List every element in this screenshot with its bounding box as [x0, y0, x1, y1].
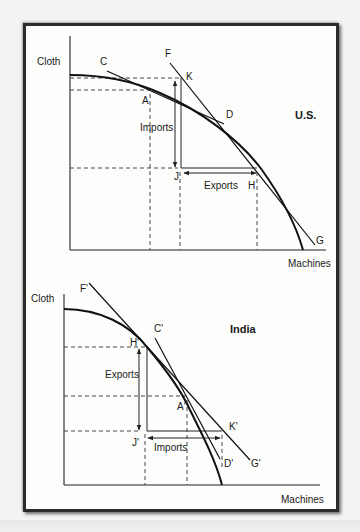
- india-ppf-curve: [64, 309, 222, 485]
- india-point-k: K': [229, 421, 238, 432]
- india-point-j: J': [132, 437, 139, 448]
- us-point-a: A: [142, 95, 149, 106]
- india-point-f: F': [80, 283, 88, 294]
- india-point-d: D': [224, 458, 233, 469]
- us-point-k: K: [186, 71, 193, 82]
- us-line-cd: [107, 71, 224, 124]
- india-point-a: A': [177, 401, 186, 412]
- india-y-axis-label: Cloth: [31, 293, 54, 304]
- india-line-cd: [155, 338, 220, 459]
- us-ppf-curve: [70, 75, 303, 250]
- us-panel: Cloth Machines U.S. C F K A D Imports J …: [37, 36, 331, 269]
- india-exports-label: Exports: [105, 369, 139, 380]
- us-point-j: J: [174, 171, 179, 182]
- us-line-fg: [170, 63, 315, 245]
- us-point-g: G: [316, 235, 324, 246]
- us-y-axis-label: Cloth: [37, 56, 60, 67]
- us-exports-label: Exports: [204, 180, 238, 191]
- us-point-f: F: [165, 48, 171, 59]
- india-title: India: [230, 323, 257, 335]
- india-x-axis-label: Machines: [281, 494, 324, 505]
- india-point-g: G': [251, 458, 261, 469]
- india-point-c: C': [154, 323, 163, 334]
- us-title: U.S.: [295, 109, 316, 121]
- us-imports-label: Imports: [140, 122, 173, 133]
- trade-diagram: Cloth Machines U.S. C F K A D Imports J …: [0, 0, 360, 532]
- india-point-h: H': [130, 337, 139, 348]
- india-panel: Cloth Machines India F' C' H' Exports A'…: [31, 283, 324, 505]
- us-point-h: H: [248, 180, 255, 191]
- us-point-c: C: [100, 56, 107, 67]
- india-imports-label: Imports: [154, 442, 187, 453]
- us-x-axis-label: Machines: [288, 258, 331, 269]
- us-point-d: D: [226, 109, 233, 120]
- page-background-strip: [0, 520, 360, 532]
